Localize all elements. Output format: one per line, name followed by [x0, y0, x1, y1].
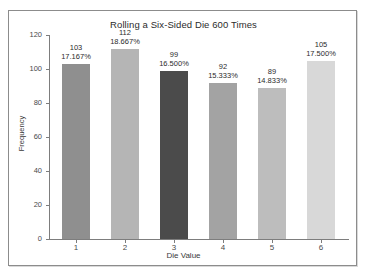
- y-tick-label: 120: [12, 30, 42, 39]
- bar-value-label: 11218.667%: [110, 28, 140, 47]
- bar-value-label: 9916.500%: [159, 50, 189, 69]
- y-tick-mark: [46, 171, 50, 172]
- y-tick-label: 100: [12, 64, 42, 73]
- y-tick-label: 80: [12, 98, 42, 107]
- bar-count-text: 99: [159, 50, 189, 60]
- bar-percent-text: 18.667%: [110, 37, 140, 47]
- bar-percent-text: 17.167%: [61, 52, 91, 62]
- bar[interactable]: 9215.333%: [209, 35, 237, 239]
- bar-rect[interactable]: [258, 88, 286, 239]
- y-tick-mark: [46, 137, 50, 138]
- bar-percent-text: 15.333%: [208, 71, 238, 81]
- bar-count-text: 105: [306, 40, 336, 50]
- bar-percent-text: 17.500%: [306, 49, 336, 59]
- bar-rect[interactable]: [111, 49, 139, 239]
- bar-value-label: 10317.167%: [61, 43, 91, 62]
- plot-area: 020406080100120 123456 10317.167%11218.6…: [49, 35, 349, 239]
- bar[interactable]: 8914.833%: [258, 35, 286, 239]
- y-tick-label: 0: [12, 234, 42, 243]
- y-tick-label: 60: [12, 132, 42, 141]
- bar[interactable]: 9916.500%: [160, 35, 188, 239]
- bar-value-label: 10517.500%: [306, 40, 336, 59]
- y-tick-mark: [46, 103, 50, 104]
- bar-value-label: 9215.333%: [208, 62, 238, 81]
- bar-rect[interactable]: [307, 61, 335, 240]
- y-tick-mark: [46, 205, 50, 206]
- bar[interactable]: 11218.667%: [111, 35, 139, 239]
- chart-title: Rolling a Six-Sided Die 600 Times: [9, 19, 358, 30]
- bar-percent-text: 16.500%: [159, 59, 189, 69]
- x-axis-line: [49, 239, 349, 240]
- bar-count-text: 103: [61, 43, 91, 53]
- bar-value-label: 8914.833%: [257, 67, 287, 86]
- bar[interactable]: 10517.500%: [307, 35, 335, 239]
- bar-count-text: 89: [257, 67, 287, 77]
- bar-rect[interactable]: [160, 71, 188, 239]
- bar-rect[interactable]: [209, 83, 237, 239]
- y-tick-mark: [46, 35, 50, 36]
- bar-rect[interactable]: [62, 64, 90, 239]
- chart-frame: Rolling a Six-Sided Die 600 Times Freque…: [8, 10, 357, 266]
- bar[interactable]: 10317.167%: [62, 35, 90, 239]
- x-axis-label: Die Value: [9, 251, 358, 260]
- bar-count-text: 92: [208, 62, 238, 72]
- y-tick-mark: [46, 69, 50, 70]
- y-tick-mark: [46, 239, 50, 240]
- y-tick-label: 20: [12, 200, 42, 209]
- y-tick-label: 40: [12, 166, 42, 175]
- bar-count-text: 112: [110, 28, 140, 38]
- bar-percent-text: 14.833%: [257, 76, 287, 86]
